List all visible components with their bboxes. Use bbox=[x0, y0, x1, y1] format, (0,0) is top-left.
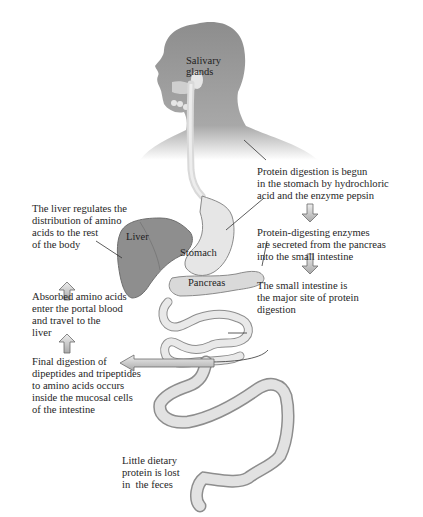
step-absorption-text: Absorbed amino acids enter the portal bl… bbox=[32, 291, 127, 339]
head-silhouette bbox=[140, 22, 318, 160]
step-small-intestine-text: The small intestine is the major site of… bbox=[257, 280, 359, 316]
pancreas-label: Pancreas bbox=[188, 277, 225, 288]
feces-note-text: Little dietary protein is lost in the fe… bbox=[122, 455, 180, 491]
step-pancreas-text: Protein-digesting enzymes are secreted f… bbox=[257, 227, 386, 263]
stomach-label: Stomach bbox=[180, 247, 217, 258]
small-intestine bbox=[163, 302, 248, 363]
step-liver-text: The liver regulates the distribution of … bbox=[32, 203, 127, 251]
step-stomach-text: Protein digestion is begun in the stomac… bbox=[257, 166, 389, 202]
salivary-glands-label: Salivary glands bbox=[186, 55, 221, 77]
liver-label: Liver bbox=[126, 231, 149, 242]
step-final-digestion-text: Final digestion of dipeptides and tripep… bbox=[32, 356, 141, 416]
